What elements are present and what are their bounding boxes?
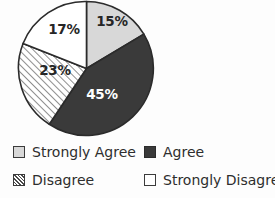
legend-item-disagree: Disagree: [13, 166, 144, 194]
pie-label-disagree: 23%: [39, 62, 71, 78]
legend-label-agree: Agree: [163, 144, 204, 160]
pie-label-strongly-agree: 15%: [96, 13, 128, 29]
legend-label-disagree: Disagree: [32, 172, 94, 188]
legend-item-agree: Agree: [144, 138, 271, 166]
pie-chart-figure: 15% 45% 23% 17% Strongly Agree Agree Dis…: [0, 0, 275, 198]
legend-item-strongly-agree: Strongly Agree: [13, 138, 144, 166]
legend-swatch-icon-strongly-disagree: [144, 174, 156, 186]
legend-swatch-icon-strongly-agree: [13, 146, 25, 158]
legend-label-strongly-agree: Strongly Agree: [32, 144, 136, 160]
legend-label-strongly-disagree: Strongly Disagree: [163, 172, 275, 188]
pie-chart-graphic: 15% 45% 23% 17%: [17, 0, 156, 138]
legend-swatch-icon-agree: [144, 146, 156, 158]
pie-label-agree: 45%: [86, 86, 118, 102]
legend-item-strongly-disagree: Strongly Disagree: [144, 166, 271, 194]
pie-label-strongly-disagree: 17%: [48, 21, 80, 37]
chart-legend: Strongly Agree Agree Disagree Strongly D…: [13, 138, 271, 194]
legend-swatch-icon-disagree: [13, 174, 25, 186]
pie-svg: 15% 45% 23% 17%: [17, 0, 156, 138]
